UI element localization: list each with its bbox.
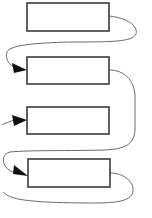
process-box-3 (27, 107, 109, 134)
process-box-4 (28, 159, 110, 187)
arrowhead-icon (12, 63, 27, 73)
arrowhead-icon (12, 115, 27, 126)
process-box-2 (27, 57, 109, 84)
flow-diagram (0, 0, 152, 218)
arrowhead-icon (13, 165, 28, 176)
connector-in-to-box3 (2, 115, 27, 126)
process-box-1 (27, 3, 109, 31)
